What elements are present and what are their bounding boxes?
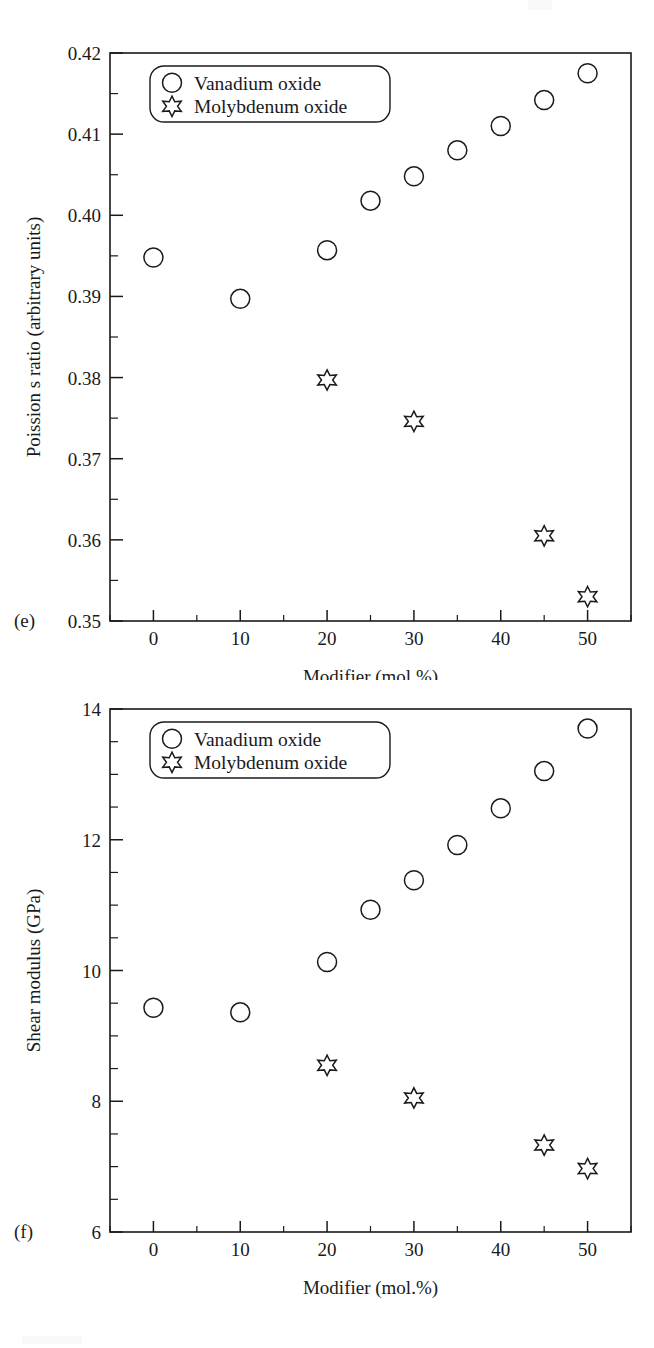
panel-f-svg: 0102030405068101214Modifier (mol.%)Shear… (0, 660, 654, 1300)
data-point-star (535, 1135, 554, 1155)
data-point-star (405, 411, 424, 431)
y-axis-tick-label: 0.39 (68, 286, 101, 307)
data-point-circle (361, 191, 380, 210)
x-axis-tick-label: 10 (231, 628, 250, 649)
data-point-circle (535, 762, 554, 781)
legend-label-vanadium: Vanadium oxide (194, 729, 321, 750)
y-axis-tick-label: 0.37 (68, 449, 101, 470)
data-point-circle (578, 719, 597, 738)
x-axis-tick-label: 20 (318, 628, 337, 649)
legend-label-molybdenum: Molybdenum oxide (194, 752, 347, 773)
data-point-circle (318, 241, 337, 260)
x-axis-tick-label: 0 (149, 1239, 159, 1260)
legend-label-molybdenum: Molybdenum oxide (194, 96, 347, 117)
y-axis-tick-label: 0.35 (68, 611, 101, 632)
y-axis-title: Shear modulus (GPa) (23, 889, 45, 1053)
x-axis-tick-label: 40 (491, 628, 510, 649)
data-point-star (318, 370, 337, 390)
y-axis-tick-label: 6 (92, 1222, 102, 1243)
data-point-circle (578, 64, 597, 83)
plot-frame (110, 709, 631, 1232)
data-point-circle (491, 117, 510, 136)
y-axis-tick-label: 0.38 (68, 368, 101, 389)
data-point-star (578, 1158, 597, 1178)
data-point-circle (144, 998, 163, 1017)
y-axis-tick-label: 10 (82, 961, 101, 982)
panel-e-plot: 010203040500.350.360.370.380.390.400.410… (0, 0, 654, 680)
y-axis-tick-label: 8 (92, 1091, 102, 1112)
data-point-star (318, 1055, 337, 1075)
x-axis-tick-label: 30 (404, 1239, 423, 1260)
panel-f-plot: 0102030405068101214Modifier (mol.%)Shear… (0, 660, 654, 1300)
y-axis-tick-label: 0.36 (68, 530, 101, 551)
legend-label-vanadium: Vanadium oxide (194, 73, 321, 94)
x-axis-title: Modifier (mol.%) (303, 1277, 438, 1299)
scan-artifact-bottom (22, 1336, 82, 1344)
data-point-circle (361, 900, 380, 919)
panel-e-poissons-ratio: 010203040500.350.360.370.380.390.400.410… (0, 0, 654, 680)
data-point-star (535, 526, 554, 546)
data-point-circle (491, 799, 510, 818)
series-star (318, 1055, 597, 1179)
data-point-circle (231, 289, 250, 308)
x-axis-tick-label: 50 (578, 1239, 597, 1260)
x-axis-tick-label: 20 (318, 1239, 337, 1260)
data-point-star (578, 586, 597, 606)
panel-label: (f) (14, 1221, 33, 1243)
x-axis-tick-label: 10 (231, 1239, 250, 1260)
data-point-circle (404, 167, 423, 186)
y-axis-tick-label: 0.40 (68, 205, 101, 226)
legend: Vanadium oxideMolybdenum oxide (150, 722, 390, 778)
x-axis-tick-label: 40 (491, 1239, 510, 1260)
data-point-circle (448, 141, 467, 160)
y-axis-tick-label: 14 (82, 699, 102, 720)
x-axis-tick-label: 0 (149, 628, 159, 649)
panel-label: (e) (14, 610, 35, 632)
y-axis-tick-label: 0.41 (68, 124, 101, 145)
x-axis-tick-label: 30 (404, 628, 423, 649)
panel-f-shear-modulus: 0102030405068101214Modifier (mol.%)Shear… (0, 660, 654, 1300)
y-axis-tick-label: 0.42 (68, 43, 101, 64)
y-axis-title: Poission s ratio (arbitrary units) (23, 217, 45, 458)
data-point-circle (144, 248, 163, 267)
x-axis-tick-label: 50 (578, 628, 597, 649)
figure-container: 010203040500.350.360.370.380.390.400.410… (0, 0, 654, 1348)
legend: Vanadium oxideMolybdenum oxide (150, 66, 390, 122)
y-axis-tick-label: 12 (82, 830, 101, 851)
data-point-circle (318, 953, 337, 972)
plot-frame (110, 53, 631, 621)
data-point-star (405, 1088, 424, 1108)
panel-e-svg: 010203040500.350.360.370.380.390.400.410… (0, 0, 654, 680)
data-point-circle (535, 91, 554, 110)
data-point-circle (404, 871, 423, 890)
data-point-circle (231, 1003, 250, 1022)
series-star (318, 370, 597, 607)
data-point-circle (448, 835, 467, 854)
